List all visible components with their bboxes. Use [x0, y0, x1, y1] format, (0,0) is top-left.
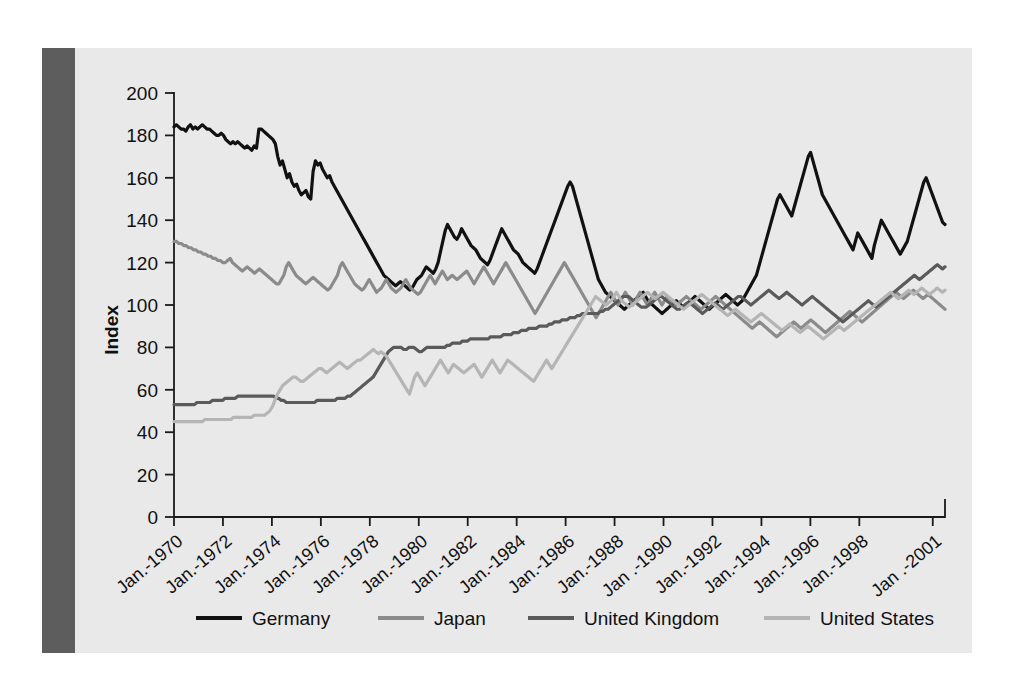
y-tick-label: 200 — [126, 83, 158, 104]
y-tick-label: 20 — [137, 465, 158, 486]
series-line-germany — [174, 125, 945, 314]
axis-lines — [174, 92, 945, 517]
legend-label-japan: Japan — [434, 608, 486, 629]
y-tick-label: 180 — [126, 125, 158, 146]
legend-label-united-kingdom: United Kingdom — [584, 608, 719, 629]
x-tick-label: Jan .-2001 — [867, 531, 945, 601]
y-tick-label: 60 — [137, 380, 158, 401]
legend-label-united-states: United States — [820, 608, 934, 629]
chart-legend: GermanyJapanUnited KingdomUnited States — [196, 608, 934, 629]
data-series-group — [174, 125, 945, 422]
y-tick-label: 140 — [126, 210, 158, 231]
axis-frame — [174, 92, 945, 517]
line-chart-svg: 020406080100120140160180200 Jan.-1970Jan… — [0, 0, 1025, 685]
x-tick-labels: Jan.-1970Jan.-1972Jan.-1974Jan.-1976Jan.… — [112, 531, 945, 601]
y-tick-labels: 020406080100120140160180200 — [126, 83, 158, 528]
y-tick-label: 100 — [126, 295, 158, 316]
y-tick-label: 120 — [126, 253, 158, 274]
y-axis-ticks — [165, 93, 174, 517]
y-tick-label: 40 — [137, 422, 158, 443]
legend-label-germany: Germany — [252, 608, 331, 629]
x-axis-ticks — [174, 517, 933, 526]
figure-root: 020406080100120140160180200 Jan.-1970Jan… — [0, 0, 1025, 685]
y-axis-title: Index — [101, 305, 122, 355]
y-tick-label: 0 — [147, 507, 158, 528]
y-tick-label: 80 — [137, 337, 158, 358]
y-tick-label: 160 — [126, 168, 158, 189]
